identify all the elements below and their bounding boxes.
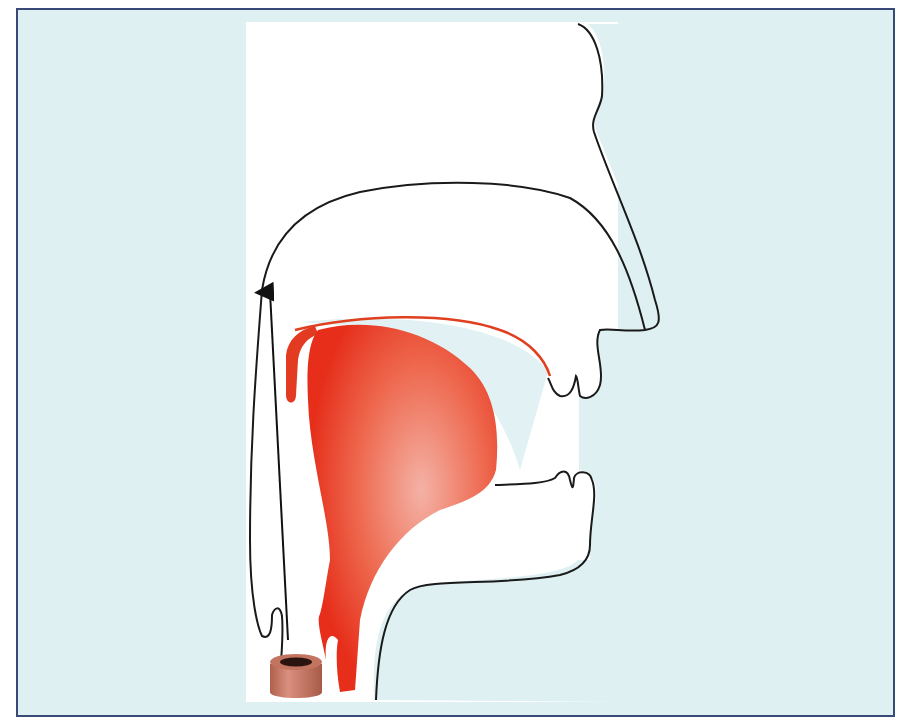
- head-section-diagram: [0, 0, 908, 728]
- airflow-arrow: [270, 292, 288, 640]
- device-cylinder: [270, 654, 322, 698]
